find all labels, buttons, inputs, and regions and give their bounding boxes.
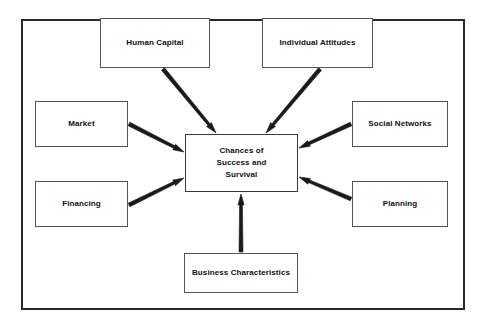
node-label: Financing [62, 198, 101, 210]
diagram-canvas: Chances of Success and Survival Human Ca… [0, 0, 485, 328]
node-label: Human Capital [126, 37, 183, 49]
arrow-individual-attitudes-to-chances [266, 68, 322, 133]
arrow-market-to-chances [128, 122, 184, 152]
node-social-networks[interactable]: Social Networks [352, 101, 448, 147]
arrow-business-characteristics-to-chances [238, 194, 244, 252]
node-planning[interactable]: Planning [352, 181, 448, 227]
node-market[interactable]: Market [35, 101, 128, 147]
node-business-characteristics[interactable]: Business Characteristics [184, 253, 298, 293]
arrow-human-capital-to-chances [161, 68, 216, 133]
node-label: Business Characteristics [192, 267, 290, 279]
node-label: Market [68, 118, 94, 130]
arrow-social-networks-to-chances [299, 122, 352, 148]
node-human-capital[interactable]: Human Capital [100, 18, 210, 68]
node-chances-of-success-and-survival[interactable]: Chances of Success and Survival [185, 134, 298, 192]
node-label: Chances of Success and Survival [216, 145, 266, 181]
arrow-financing-to-chances [128, 178, 184, 207]
node-label: Individual Attitudes [280, 37, 356, 49]
node-label: Social Networks [368, 118, 431, 130]
arrow-planning-to-chances [299, 177, 352, 201]
node-label: Planning [383, 198, 418, 210]
node-individual-attitudes[interactable]: Individual Attitudes [262, 18, 373, 68]
node-financing[interactable]: Financing [35, 181, 128, 227]
